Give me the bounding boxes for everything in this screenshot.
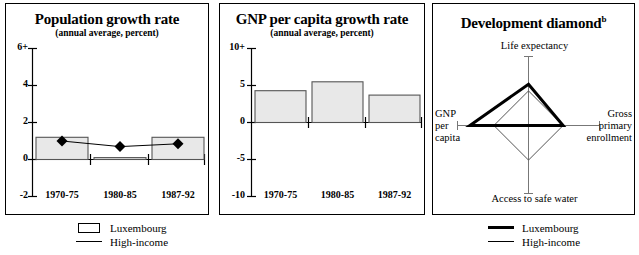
gnp-chart-plot: [220, 4, 426, 216]
x-category-label-1980-85: 1980-85: [312, 189, 363, 200]
y-tick-label-10: 10+: [220, 41, 245, 52]
diamond-axis-label-gross-primary-enrollment: Gross primary enrollment: [562, 108, 632, 144]
diamond-axis-label-life-expectancy: Life expectancy: [433, 40, 636, 52]
legend-item-high-income: High-income: [74, 235, 168, 248]
legend-thick-line-icon: [486, 226, 516, 229]
enrollment-label-line-1: Gross: [562, 108, 632, 120]
enrollment-label-line-2: primary: [562, 120, 632, 132]
legend-item-high-income: High-income: [486, 235, 580, 248]
x-category-label-1987-92: 1987-92: [369, 189, 420, 200]
gnp-label-line-1: GNP: [435, 108, 471, 120]
legend-item-luxembourg: Luxembourg: [74, 221, 168, 234]
bar-luxembourg-1970-75: [255, 91, 306, 123]
x-category-label-1987-92: 1987-92: [152, 189, 204, 200]
diamond-axis-label-access-to-safe-water: Access to safe water: [433, 193, 636, 205]
diamond-axis-label-gnp-per-capita: GNP per capita: [435, 108, 471, 144]
bar-luxembourg-1980-85: [312, 82, 363, 123]
y-tick-label-0: 0: [220, 115, 245, 126]
legend-label-luxembourg: Luxembourg: [110, 222, 167, 234]
legend-thin-line-icon: [74, 241, 104, 242]
y-tick-label-minus2: -2: [10, 189, 28, 200]
legend-box-icon: [74, 223, 104, 233]
population-chart-plot: [6, 4, 210, 216]
gnp-label-line-3: capita: [435, 132, 471, 144]
panel-gnp-per-capita-growth-rate: GNP per capita growth rate (annual avera…: [219, 3, 425, 215]
legend-label-high-income: High-income: [110, 236, 168, 248]
y-tick-label-minus5: -5: [220, 152, 245, 163]
legend-diamond: Luxembourg High-income: [486, 221, 580, 249]
panel-development-diamond: Development diamondb Life expectancy Acc…: [432, 3, 635, 215]
x-category-label-1980-85: 1980-85: [94, 189, 146, 200]
x-category-label-1970-75: 1970-75: [255, 189, 306, 200]
polygon-luxembourg: [470, 84, 563, 125]
legend-thin-line-icon: [486, 241, 516, 242]
bar-luxembourg-1980-85: [94, 158, 146, 160]
legend-label-high-income: High-income: [522, 236, 580, 248]
legend-population: Luxembourg High-income: [74, 221, 168, 249]
y-tick-label-5: 5: [220, 78, 245, 89]
legend-item-luxembourg: Luxembourg: [486, 221, 580, 234]
x-category-label-1970-75: 1970-75: [36, 189, 88, 200]
legend-label-luxembourg: Luxembourg: [522, 222, 579, 234]
panel-population-growth-rate: Population growth rate (annual average, …: [5, 3, 209, 215]
y-tick-label-6: 6+: [10, 41, 28, 52]
y-tick-label-0: 0: [10, 152, 28, 163]
y-tick-label-4: 4: [10, 78, 28, 89]
bar-luxembourg-1987-92: [369, 95, 420, 122]
marker-high-income-1980-85: [115, 141, 126, 152]
gnp-label-line-2: per: [435, 120, 471, 132]
y-tick-label-2: 2: [10, 115, 28, 126]
enrollment-label-line-3: enrollment: [562, 132, 632, 144]
y-tick-label-minus10: -10: [220, 189, 245, 200]
